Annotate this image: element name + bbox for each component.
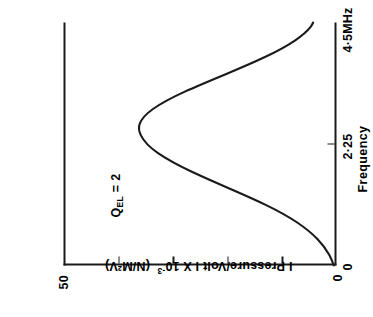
- y-axis-title-units: (N/M²V): [104, 259, 149, 273]
- resonance-curve: [63, 22, 336, 265]
- x-axis-tick-label-4-5mhz: 4·5MHz: [340, 7, 354, 52]
- q-relation: =: [108, 184, 122, 192]
- q-factor-annotation: QEL = 2: [108, 173, 125, 217]
- y-axis-title-main: I Pressure/Volt I X 10: [165, 259, 292, 273]
- rotated-figure-wrapper: 50 0 0 2·25 4·5MHz Frequency I Pressure/…: [0, 0, 373, 317]
- figure-canvas: 50 0 0 2·25 4·5MHz Frequency I Pressure/…: [0, 0, 373, 317]
- y-axis-title: I Pressure/Volt I X 10-3 (N/M²V): [53, 259, 343, 275]
- figure-root: 50 0 0 2·25 4·5MHz Frequency I Pressure/…: [0, 0, 373, 317]
- q-value: 2: [108, 173, 122, 180]
- q-subscript: EL: [115, 196, 125, 207]
- y-axis-max-label: 50: [56, 275, 70, 289]
- x-axis-tick-label-2-25: 2·25: [340, 133, 354, 159]
- y-axis-title-exponent: -3: [157, 265, 165, 275]
- curve-path: [138, 22, 333, 265]
- x-axis-title: Frequency: [355, 0, 369, 317]
- plot-area: [63, 22, 336, 265]
- q-symbol: Q: [108, 207, 122, 217]
